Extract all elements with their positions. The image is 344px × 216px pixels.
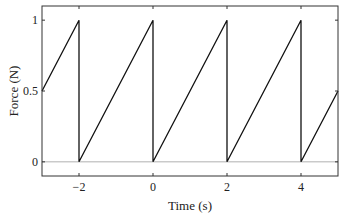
y-tick-label: 0.5: [23, 84, 38, 98]
y-tick-label: 0: [32, 155, 38, 169]
plot-lines: [42, 20, 338, 162]
x-tick-label: 0: [150, 180, 156, 194]
chart: −2024 00.51 Time (s) Force (N): [0, 0, 344, 216]
x-ticks: −2024: [73, 6, 304, 194]
y-tick-label: 1: [32, 13, 38, 27]
x-tick-label: 4: [298, 180, 304, 194]
x-axis-label: Time (s): [168, 198, 212, 213]
x-tick-label: −2: [73, 180, 86, 194]
x-tick-label: 2: [224, 180, 230, 194]
series-line: [42, 20, 338, 162]
y-axis-label: Force (N): [6, 66, 21, 117]
